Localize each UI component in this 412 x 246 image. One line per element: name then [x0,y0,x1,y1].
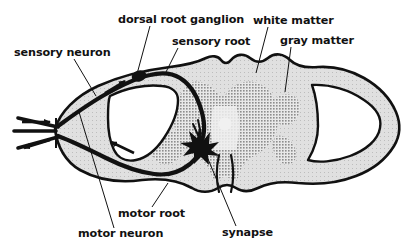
leader-dorsal-root-ganglion [137,26,150,74]
label-gray-matter: gray matter [280,34,354,47]
label-motor-root: motor root [118,207,186,220]
label-dorsal-root-ganglion: dorsal root ganglion [118,13,244,26]
leader-sensory-neuron [74,59,96,96]
diagram-canvas: sensory neuron dorsal root ganglion sens… [0,0,412,246]
label-synapse: synapse [222,226,274,239]
label-motor-neuron: motor neuron [78,227,163,240]
label-sensory-root: sensory root [172,35,251,48]
leader-motor-root [152,183,168,207]
label-sensory-neuron: sensory neuron [14,46,111,59]
label-white-matter: white matter [253,14,334,27]
spinal-cord-diagram: sensory neuron dorsal root ganglion sens… [0,0,412,246]
